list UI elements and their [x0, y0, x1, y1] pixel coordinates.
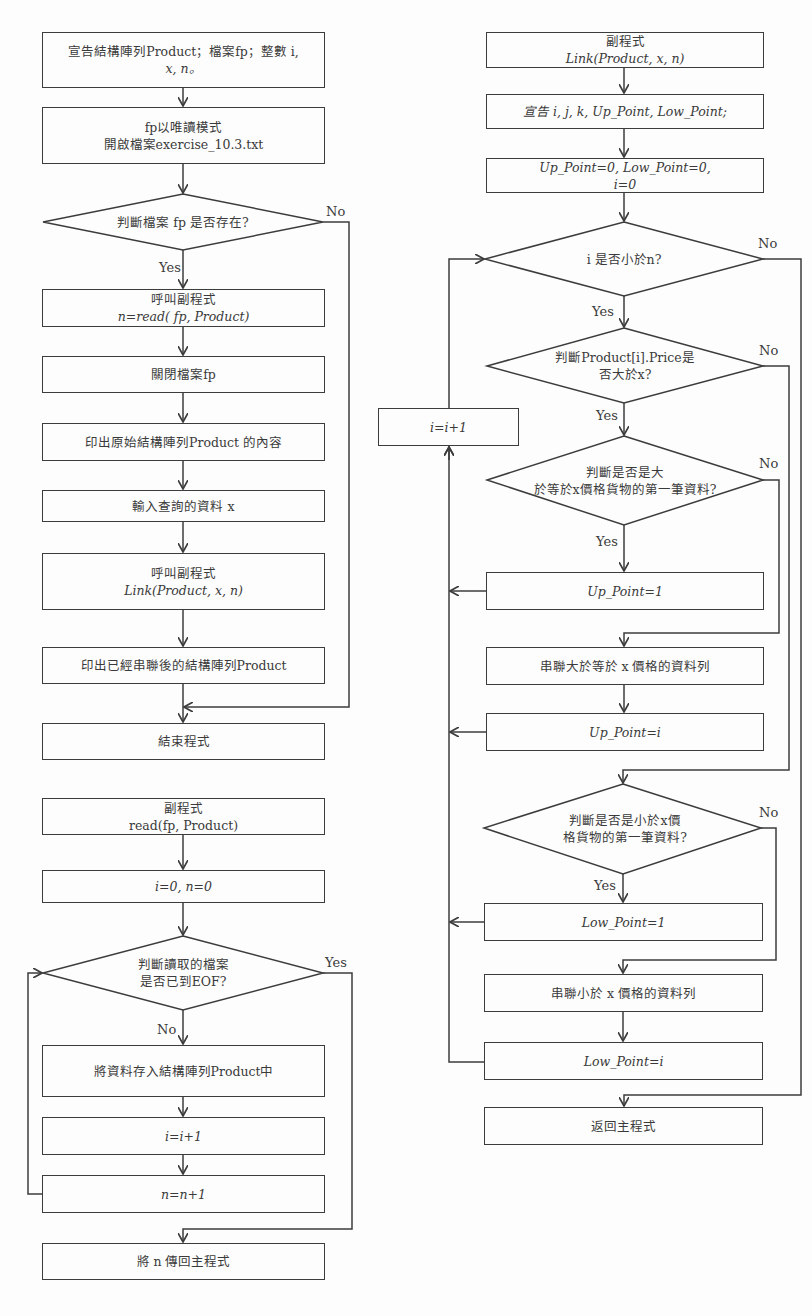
link-inc-i-label: i=i+1 — [430, 419, 467, 436]
read-inc-i-label: i=i+1 — [165, 1128, 202, 1145]
open-file-line1: fp以唯讀模式 — [145, 119, 223, 136]
call-read-line2: n=read( fp, Product) — [118, 308, 250, 325]
close-file-box: 關閉檔案fp — [42, 356, 325, 393]
open-file-line2: 開啟檔案exercise_10.3.txt — [104, 136, 264, 153]
close-file-label: 關閉檔案fp — [151, 366, 216, 383]
declare-line2: x, n。 — [165, 60, 201, 77]
link-inc-i-box: i=i+1 — [378, 408, 519, 446]
link-init-line2: i=0 — [614, 176, 636, 193]
decision-file-exists — [43, 194, 323, 250]
low-point-i-box: Low_Point=i — [484, 1042, 763, 1080]
link-init-line1: Up_Point=0, Low_Point=0, — [539, 159, 710, 176]
decision-first-low — [484, 784, 761, 874]
link-header-line2: Link(Product, x, n) — [566, 50, 685, 67]
link-declare-label: 宣告 i, j, k, Up_Point, Low_Point; — [523, 103, 727, 120]
link-init-box: Up_Point=0, Low_Point=0, i=0 — [486, 158, 764, 193]
read-header-box: 副程式 read(fp, Product) — [42, 798, 325, 835]
read-header-line1: 副程式 — [164, 800, 203, 817]
check-first-low-no-label: No — [759, 805, 778, 820]
low-point-1-box: Low_Point=1 — [484, 903, 763, 941]
input-x-label: 輸入查詢的資料 x — [132, 498, 234, 515]
call-read-line1: 呼叫副程式 — [151, 291, 216, 308]
end-program-label: 結束程式 — [158, 733, 210, 750]
check-first-up-no-label: No — [759, 456, 778, 471]
up-point-i-box: Up_Point=i — [486, 713, 764, 751]
link-up-box: 串聯大於等於 x 價格的資料列 — [486, 647, 764, 685]
store-data-label: 將資料存入結構陣列Product中 — [94, 1063, 274, 1080]
read-inc-n-label: n=n+1 — [161, 1186, 206, 1203]
link-low-box: 串聯小於 x 價格的資料列 — [484, 974, 763, 1012]
check-price-yes-label: Yes — [596, 408, 618, 423]
read-inc-i-box: i=i+1 — [42, 1117, 325, 1155]
decision-i-less-n — [485, 222, 763, 296]
call-link-box: 呼叫副程式 Link(Product, x, n) — [42, 553, 325, 610]
read-header-line2: read(fp, Product) — [129, 817, 238, 834]
check-file-yes-label: Yes — [159, 260, 181, 275]
declare-line1: 宣告結構陣列Product；檔案fp；整數 i, — [68, 43, 299, 60]
return-n-box: 將 n 傳回主程式 — [42, 1243, 325, 1280]
read-init-label: i=0, n=0 — [155, 878, 212, 895]
print-original-label: 印出原始結構陣列Product 的內容 — [85, 434, 282, 451]
check-first-up-yes-label: Yes — [596, 534, 618, 549]
link-declare-box: 宣告 i, j, k, Up_Point, Low_Point; — [486, 94, 764, 129]
print-original-box: 印出原始結構陣列Product 的內容 — [42, 423, 325, 461]
eof-yes-label: Yes — [325, 955, 347, 970]
decision-first-up — [487, 436, 763, 525]
low-point-i-label: Low_Point=i — [584, 1053, 664, 1070]
check-file-no-label: No — [326, 204, 345, 219]
read-inc-n-box: n=n+1 — [42, 1175, 325, 1213]
up-point-1-label: Up_Point=1 — [587, 583, 663, 600]
call-link-line1: 呼叫副程式 — [151, 565, 216, 582]
input-x-box: 輸入查詢的資料 x — [42, 490, 325, 522]
up-point-1-box: Up_Point=1 — [486, 572, 764, 610]
print-linked-box: 印出已經串聯後的結構陣列Product — [42, 647, 325, 684]
check-price-no-label: No — [759, 343, 778, 358]
eof-no-label: No — [157, 1022, 176, 1037]
open-file-box: fp以唯讀模式 開啟檔案exercise_10.3.txt — [42, 107, 325, 164]
link-header-line1: 副程式 — [606, 33, 645, 50]
link-header-box: 副程式 Link(Product, x, n) — [486, 32, 764, 68]
check-i-yes-label: Yes — [592, 304, 614, 319]
link-low-label: 串聯小於 x 價格的資料列 — [551, 985, 696, 1002]
store-data-box: 將資料存入結構陣列Product中 — [42, 1045, 325, 1097]
end-program-box: 結束程式 — [42, 723, 325, 760]
call-read-box: 呼叫副程式 n=read( fp, Product) — [42, 289, 325, 327]
check-first-low-yes-label: Yes — [594, 878, 616, 893]
return-main-label: 返回主程式 — [591, 1118, 656, 1135]
check-i-no-label: No — [758, 236, 777, 251]
read-init-box: i=0, n=0 — [42, 870, 325, 903]
up-point-i-label: Up_Point=i — [589, 724, 661, 741]
decision-price — [487, 328, 763, 403]
declare-variables-box: 宣告結構陣列Product；檔案fp；整數 i, x, n。 — [42, 32, 325, 88]
return-n-label: 將 n 傳回主程式 — [137, 1253, 231, 1270]
low-point-1-label: Low_Point=1 — [582, 914, 666, 931]
call-link-line2: Link(Product, x, n) — [124, 582, 243, 599]
decision-eof — [43, 936, 323, 1010]
link-up-label: 串聯大於等於 x 價格的資料列 — [540, 658, 711, 675]
return-main-box: 返回主程式 — [484, 1107, 763, 1145]
print-linked-label: 印出已經串聯後的結構陣列Product — [81, 657, 287, 674]
